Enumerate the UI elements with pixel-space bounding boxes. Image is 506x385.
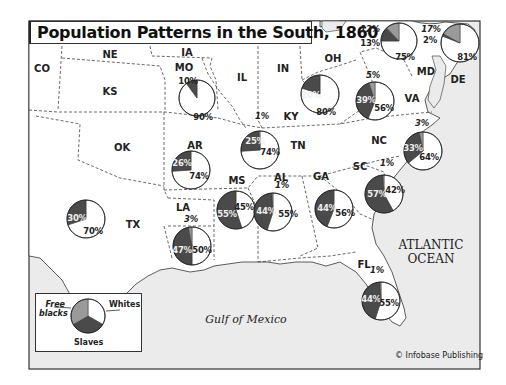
legend-free-line2: blacks — [39, 309, 65, 318]
atlantic-line2: OCEAN — [398, 252, 463, 266]
state-label-de: DE — [450, 74, 465, 85]
state-label-ks: KS — [103, 86, 118, 97]
state-label-va: VA — [405, 93, 420, 104]
pct-tn-slaves: 25% — [245, 136, 264, 146]
pct-mo-slaves: 10% — [178, 76, 197, 86]
atlantic-line1: ATLANTIC — [398, 238, 463, 252]
pct-md-slaves: 13% — [360, 38, 379, 48]
pct-va-free: 5% — [366, 70, 380, 80]
legend-free-blacks-label: Free blacks — [39, 300, 65, 318]
pct-al-whites: 55% — [278, 209, 297, 219]
state-label-co: CO — [34, 63, 50, 74]
pct-de-free: 17% — [421, 24, 440, 34]
pct-ky-slaves: 20% — [301, 90, 320, 100]
legend-slaves-label: Slaves — [74, 338, 103, 347]
pie-ar — [172, 151, 210, 189]
pct-la-free: 3% — [184, 214, 198, 224]
state-label-il: IL — [237, 72, 247, 83]
state-label-la: LA — [176, 202, 190, 213]
atlantic-ocean-label: ATLANTIC OCEAN — [398, 238, 463, 266]
pct-de-whites: 81% — [457, 52, 476, 62]
state-label-tn: TN — [290, 140, 305, 151]
pct-la-slaves: 47% — [172, 245, 191, 255]
state-label-oh: OH — [325, 53, 342, 64]
pct-fl-free: 1% — [370, 265, 384, 275]
state-label-in: IN — [277, 63, 289, 74]
pct-va-whites: 56% — [374, 103, 393, 113]
pct-ms-whites: 45% — [234, 202, 253, 212]
legend-free-line1: Free — [39, 300, 65, 309]
pct-ky-whites: 80% — [316, 107, 335, 117]
state-label-sc: SC — [353, 161, 368, 172]
state-label-ne: NE — [102, 49, 117, 60]
pct-ga-slaves: 44% — [317, 203, 336, 213]
state-label-ar: AR — [187, 140, 202, 151]
state-label-md: MD — [417, 66, 435, 77]
pct-al-slaves: 44% — [256, 206, 275, 216]
state-label-tx: TX — [126, 219, 141, 230]
state-label-ky: KY — [284, 111, 299, 122]
pct-fl-whites: 55% — [379, 298, 398, 308]
pct-fl-slaves: 44% — [361, 294, 380, 304]
pct-sc-slaves: 57% — [367, 189, 386, 199]
state-label-ok: OK — [114, 142, 130, 153]
state-label-ms: MS — [228, 175, 245, 186]
state-label-fl: FL — [357, 259, 370, 270]
page-title: Population Patterns in the South, 1860 — [37, 23, 378, 42]
pct-al-free: 1% — [275, 180, 289, 190]
pct-md-free: 12% — [360, 24, 379, 34]
pct-sc-free: 1% — [380, 158, 394, 168]
pct-sc-whites: 42% — [385, 185, 404, 195]
pct-nc-free: 3% — [415, 118, 429, 128]
state-label-nc: NC — [371, 135, 387, 146]
state-label-ga: GA — [313, 171, 329, 182]
publisher-credit: © Infobase Publishing — [395, 351, 483, 360]
pct-la-whites: 50% — [192, 245, 211, 255]
pct-va-slaves: 39% — [356, 95, 375, 105]
title-box: Population Patterns in the South, 1860 — [29, 21, 312, 44]
legend-box: Free blacks Whites Slaves — [35, 293, 142, 352]
pct-tn-whites: 74% — [260, 147, 279, 157]
gulf-of-mexico-label: Gulf of Mexico — [205, 313, 286, 326]
pct-de-slaves: 2% — [423, 35, 437, 45]
state-label-ia: IA — [181, 47, 192, 58]
pct-tx-whites: 70% — [83, 226, 102, 236]
pct-mo-whites: 90% — [193, 112, 212, 122]
pct-ga-whites: 56% — [335, 208, 354, 218]
pct-ar-slaves: 26% — [172, 158, 191, 168]
legend-whites-label: Whites — [109, 300, 140, 309]
pct-tn-free: 1% — [255, 111, 269, 121]
state-label-mo: MO — [175, 62, 193, 73]
pct-md-whites: 75% — [395, 52, 414, 62]
pct-ar-whites: 74% — [189, 171, 208, 181]
pct-tx-slaves: 30% — [67, 213, 86, 223]
pct-nc-whites: 64% — [419, 152, 438, 162]
